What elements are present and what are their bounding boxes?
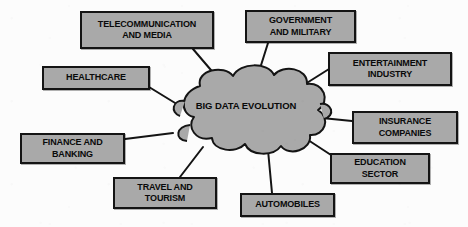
- big-data-evolution-diagram: BIG DATA EVOLUTION TELECOMMUNICATION AND…: [0, 0, 468, 227]
- node-label-insurance-companies: INSURANCE COMPANIES: [376, 116, 435, 139]
- node-insurance-companies[interactable]: INSURANCE COMPANIES: [352, 111, 458, 144]
- node-label-education-sector: EDUCATION SECTOR: [351, 157, 408, 180]
- node-label-finance-and-banking: FINANCE AND BANKING: [39, 137, 105, 160]
- node-finance-and-banking[interactable]: FINANCE AND BANKING: [20, 133, 125, 164]
- node-label-automobiles: AUTOMOBILES: [252, 199, 323, 211]
- node-travel-and-tourism[interactable]: TRAVEL AND TOURISM: [113, 177, 217, 209]
- node-government-and-military[interactable]: GOVERNMENT AND MILITARY: [245, 10, 356, 43]
- cloud-shape: [174, 65, 332, 153]
- node-label-entertainment-industry: ENTERTAINMENT INDUSTRY: [350, 58, 430, 81]
- node-label-telecommunication-and-media: TELECOMMUNICATION AND MEDIA: [95, 19, 199, 42]
- node-telecommunication-and-media[interactable]: TELECOMMUNICATION AND MEDIA: [80, 11, 214, 49]
- node-automobiles[interactable]: AUTOMOBILES: [240, 193, 335, 217]
- node-label-travel-and-tourism: TRAVEL AND TOURISM: [134, 182, 195, 205]
- node-label-government-and-military: GOVERNMENT AND MILITARY: [266, 15, 335, 38]
- node-education-sector[interactable]: EDUCATION SECTOR: [330, 153, 430, 184]
- node-healthcare[interactable]: HEALTHCARE: [42, 66, 150, 90]
- node-label-healthcare: HEALTHCARE: [63, 72, 129, 84]
- node-entertainment-industry[interactable]: ENTERTAINMENT INDUSTRY: [328, 52, 452, 86]
